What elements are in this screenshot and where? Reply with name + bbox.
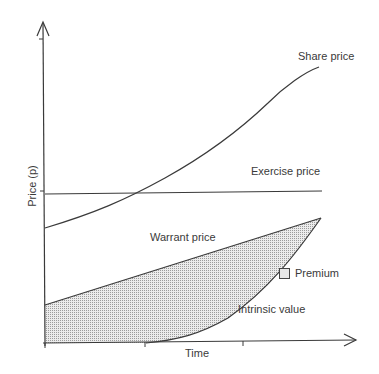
legend: Premium xyxy=(279,268,339,279)
warrant-price-label: Warrant price xyxy=(150,232,216,243)
exercise-price-line xyxy=(45,191,322,194)
y-axis xyxy=(43,23,45,346)
warrant-price-chart: Share price Exercise price Warrant price… xyxy=(0,0,379,374)
intrinsic-value-label: Intrinsic value xyxy=(238,304,305,315)
exercise-price-label: Exercise price xyxy=(251,166,320,177)
share-price-label: Share price xyxy=(298,51,354,62)
y-axis-label: Price (p) xyxy=(26,156,38,216)
x-axis-label: Time xyxy=(185,348,209,359)
share-price-curve xyxy=(45,67,319,228)
premium-swatch-icon xyxy=(279,268,290,279)
legend-premium-label: Premium xyxy=(295,268,339,279)
